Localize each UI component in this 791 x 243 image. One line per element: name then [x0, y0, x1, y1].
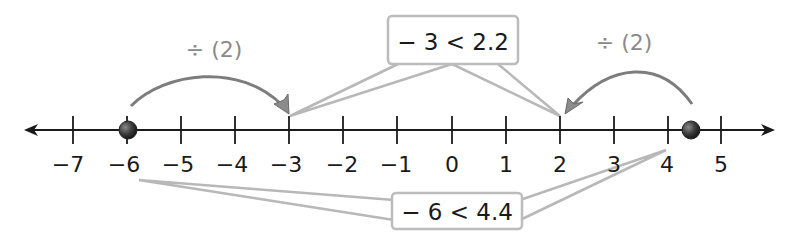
tick-label: −6	[108, 152, 140, 177]
point-4-4	[682, 121, 700, 139]
tick-label: −7	[52, 152, 84, 177]
tick-label: 3	[607, 152, 621, 177]
tick-label: 2	[553, 152, 567, 177]
bottom-callout: − 6 < 4.4	[392, 193, 522, 229]
right-divide-arrow: ÷ (2)	[565, 30, 692, 114]
arrowhead-icon	[565, 98, 583, 114]
right-divide-label: ÷ (2)	[596, 30, 653, 55]
tick-label: 1	[499, 152, 513, 177]
left-divide-arrow: ÷ (2)	[131, 37, 289, 114]
top-callout-pointers	[290, 64, 560, 116]
tick-label: −2	[326, 152, 358, 177]
arrowhead-icon	[274, 94, 289, 114]
tick-label: −3	[270, 152, 302, 177]
number-line-diagram: − 3 < 2.2 − 6 < 4.4 −7 −6 −5 −4	[0, 0, 791, 243]
top-callout-text: − 3 < 2.2	[397, 29, 509, 55]
tick-label: 0	[445, 152, 459, 177]
tick-label: −4	[216, 152, 248, 177]
tick-label: 5	[714, 152, 728, 177]
point-neg6	[119, 121, 137, 139]
tick-label: −1	[380, 152, 412, 177]
tick-label: −5	[162, 152, 194, 177]
top-callout: − 3 < 2.2	[388, 16, 518, 64]
left-divide-label: ÷ (2)	[186, 37, 243, 62]
tick-label: 4	[660, 152, 674, 177]
bottom-callout-text: − 6 < 4.4	[401, 199, 513, 225]
